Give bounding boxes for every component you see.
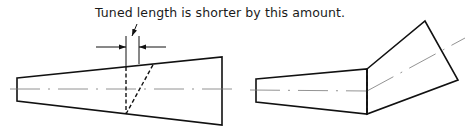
dimension-annotation <box>96 36 166 66</box>
angled-cut-hidden-line <box>126 63 154 114</box>
left-tapered-section <box>10 57 232 125</box>
diagram-drawing <box>0 0 476 133</box>
leader-arrow-icon <box>132 24 137 36</box>
right-bent-section <box>250 21 465 114</box>
diagram-canvas: Tuned length is shorter by this amount. <box>0 0 476 133</box>
right-centerline-straight <box>250 90 367 91</box>
